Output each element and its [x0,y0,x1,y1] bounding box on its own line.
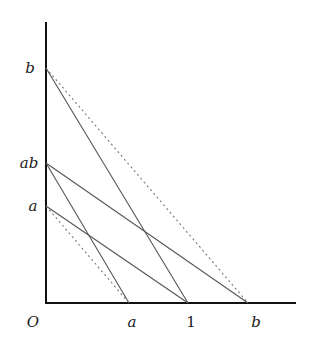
line-b-to-1 [46,68,188,303]
dotted-line-b-to-b [46,68,248,303]
line-ab-to-b [46,163,248,303]
x-label-1: 1 [186,313,196,331]
line-a-to-1 [46,206,188,303]
origin-label: O [27,313,39,331]
y-label-a: a [29,197,38,215]
diagram-canvas: b ab a O a 1 b [0,0,318,350]
y-label-ab: ab [20,154,39,172]
y-label-b: b [25,59,35,77]
x-label-a: a [128,313,137,331]
x-label-b: b [251,313,261,331]
